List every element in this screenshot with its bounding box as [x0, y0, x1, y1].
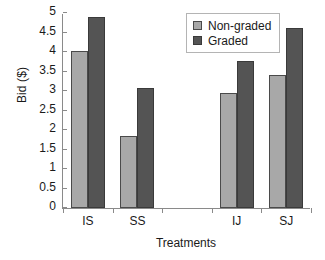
y-tick-mark: [63, 51, 67, 52]
x-tick-mark: [113, 208, 114, 213]
y-tick-label: 2.5: [39, 103, 56, 115]
y-tick-label: 4.5: [39, 25, 56, 37]
bar: [120, 136, 137, 208]
y-axis-title: Bid ($): [15, 45, 29, 125]
x-axis-category-label: SJ: [279, 215, 293, 227]
y-tick-mark: [63, 129, 67, 130]
legend-swatch-icon-graded: [193, 36, 202, 45]
y-tick-label: 1.5: [39, 142, 56, 154]
legend-swatch-icon-non-graded: [193, 21, 202, 30]
legend-item-graded: Graded: [193, 33, 271, 48]
x-tick-mark: [261, 208, 262, 213]
y-tick-label: 5: [49, 5, 56, 17]
y-tick-mark: [63, 12, 67, 13]
y-tick-mark: [63, 168, 67, 169]
bar: [269, 75, 286, 208]
bar: [237, 61, 254, 208]
y-tick-label: 3: [49, 83, 56, 95]
x-tick-mark: [212, 208, 213, 213]
x-tick-mark: [63, 208, 64, 213]
x-axis-category-label: IJ: [232, 215, 241, 227]
y-tick-mark: [63, 71, 67, 72]
legend: Non-graded Graded: [186, 13, 280, 53]
y-tick-label: 4: [49, 44, 56, 56]
y-tick-label: 0.5: [39, 181, 56, 193]
y-tick-label: 3.5: [39, 64, 56, 76]
bar: [220, 93, 237, 208]
legend-label-graded: Graded: [208, 35, 248, 47]
bar: [137, 88, 154, 208]
y-tick-mark: [63, 110, 67, 111]
x-axis-category-label: IS: [82, 215, 93, 227]
bar: [88, 17, 105, 208]
y-tick-label: 2: [49, 122, 56, 134]
y-tick-label: 1: [49, 161, 56, 173]
y-tick-mark: [63, 188, 67, 189]
x-tick-mark: [162, 208, 163, 213]
bar: [286, 28, 303, 208]
x-tick-mark: [311, 208, 312, 213]
legend-label-non-graded: Non-graded: [208, 20, 271, 32]
y-tick-mark: [63, 149, 67, 150]
x-axis-category-label: SS: [129, 215, 145, 227]
x-axis-title: Treatments: [62, 236, 310, 250]
y-tick-mark: [63, 90, 67, 91]
y-tick-label: 0: [49, 200, 56, 212]
legend-item-non-graded: Non-graded: [193, 18, 271, 33]
bar-chart: Bid ($) 00.511.522.533.544.55 ISSSIJSJ T…: [0, 0, 325, 260]
bar: [71, 51, 88, 208]
y-tick-mark: [63, 32, 67, 33]
